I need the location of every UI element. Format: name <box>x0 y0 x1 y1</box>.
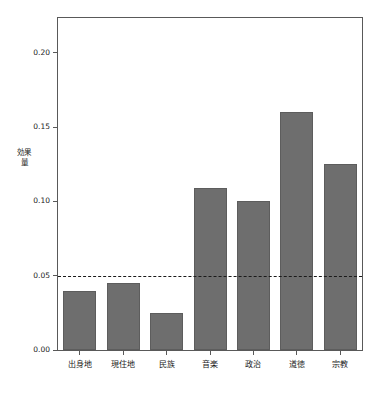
x-tick-label: 道徳 <box>289 359 305 370</box>
x-tick-mark <box>123 350 124 355</box>
y-axis-label: 効果量 <box>17 148 31 167</box>
x-tick-mark <box>166 350 167 355</box>
y-tick-mark <box>53 350 58 351</box>
x-tick-label: 音楽 <box>202 359 218 370</box>
bar <box>63 291 96 350</box>
plot-area: 0.000.050.100.150.20 出身地現住地民族音楽政治道徳宗教 <box>57 17 363 351</box>
bar <box>324 164 357 350</box>
x-tick-mark <box>210 350 211 355</box>
y-tick-label: 0.05 <box>33 270 50 282</box>
y-tick-label: 0.00 <box>33 344 50 356</box>
x-tick-label: 民族 <box>159 359 175 370</box>
y-tick-label: 0.10 <box>33 195 50 207</box>
y-tick-label: 0.15 <box>33 121 50 133</box>
y-tick-mark <box>53 52 58 53</box>
y-tick-mark <box>53 127 58 128</box>
x-tick-label: 出身地 <box>68 359 92 370</box>
bar <box>194 188 227 350</box>
x-tick-mark <box>296 350 297 355</box>
threshold-line <box>58 276 362 277</box>
y-tick-label: 0.20 <box>33 47 50 59</box>
bar-chart-figure: 効果量 0.000.050.100.150.20 出身地現住地民族音楽政治道徳宗… <box>0 0 384 396</box>
bar <box>150 313 183 350</box>
x-tick-mark <box>340 350 341 355</box>
x-tick-mark <box>79 350 80 355</box>
x-tick-label: 宗教 <box>332 359 348 370</box>
bar <box>107 283 140 350</box>
x-tick-label: 政治 <box>245 359 261 370</box>
bar <box>280 112 313 350</box>
x-tick-mark <box>253 350 254 355</box>
y-tick-mark <box>53 201 58 202</box>
x-tick-label: 現住地 <box>111 359 135 370</box>
